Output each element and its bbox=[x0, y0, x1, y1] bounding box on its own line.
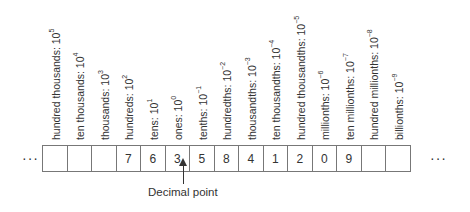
digit-cell-hundred-thousands: hundred thousands: 105 bbox=[42, 145, 68, 172]
digit-cell-hundred-millionths: hundred millionths: 10−8 bbox=[361, 145, 387, 172]
digit: 0 bbox=[321, 152, 328, 166]
digit: 1 bbox=[272, 152, 279, 166]
digit-cell-ten-thousandths: ten thousandths: 10−41 bbox=[263, 145, 289, 172]
digit-cell-hundredths: hundredths: 10−28 bbox=[214, 145, 240, 172]
place-label: ten thousands: 104 bbox=[72, 53, 86, 140]
place-label: ten thousandths: 10−4 bbox=[268, 40, 282, 140]
digit: 7 bbox=[125, 152, 132, 166]
digit: 4 bbox=[247, 152, 254, 166]
place-label: tenths: 10−1 bbox=[195, 86, 209, 140]
place-label: hundredths: 10−2 bbox=[219, 62, 233, 140]
digit: 6 bbox=[149, 152, 156, 166]
place-label: thousands: 103 bbox=[97, 70, 111, 140]
digit-cell-hundreds: hundreds: 1027 bbox=[116, 145, 142, 172]
place-label: billionths: 10−9 bbox=[391, 74, 405, 140]
place-label: hundred thousandths: 10−5 bbox=[293, 16, 307, 140]
place-label: thousandths: 10−3 bbox=[244, 57, 258, 140]
arrow-shaft bbox=[183, 162, 184, 184]
place-label: millionths: 10−6 bbox=[317, 71, 331, 140]
digit-cell-thousands: thousands: 103 bbox=[91, 145, 117, 172]
digit-cell-hundred-thousandths: hundred thousandths: 10−52 bbox=[287, 145, 313, 172]
digit-cell-ten-millionths: ten millionths: 10−79 bbox=[336, 145, 362, 172]
digit-cell-thousandths: thousandths: 10−34 bbox=[238, 145, 264, 172]
digit: 9 bbox=[345, 152, 352, 166]
place-label: hundred millionths: 10−8 bbox=[366, 29, 380, 140]
digit-cell-millionths: millionths: 10−60 bbox=[312, 145, 338, 172]
place-label: ten millionths: 10−7 bbox=[342, 53, 356, 140]
digit-cell-tenths: tenths: 10−15 bbox=[189, 145, 215, 172]
digit: 2 bbox=[296, 152, 303, 166]
digit: 5 bbox=[198, 152, 205, 166]
right-ellipsis: ··· bbox=[430, 150, 447, 166]
digit: 8 bbox=[223, 152, 230, 166]
place-label: hundred thousands: 105 bbox=[48, 29, 62, 140]
place-label: ones: 100 bbox=[170, 96, 184, 140]
digit-cell-billionths: billionths: 10−9 bbox=[385, 145, 411, 172]
digit-cell-ten-thousands: ten thousands: 104 bbox=[67, 145, 93, 172]
digit-cell-tens: tens: 1016 bbox=[140, 145, 166, 172]
place-label: tens: 101 bbox=[146, 99, 160, 140]
place-label: hundreds: 102 bbox=[121, 75, 135, 140]
decimal-point-caption: Decimal point bbox=[148, 186, 218, 198]
digit-row: hundred thousands: 105 ten thousands: 10… bbox=[42, 145, 411, 172]
left-ellipsis: ··· bbox=[22, 150, 39, 166]
